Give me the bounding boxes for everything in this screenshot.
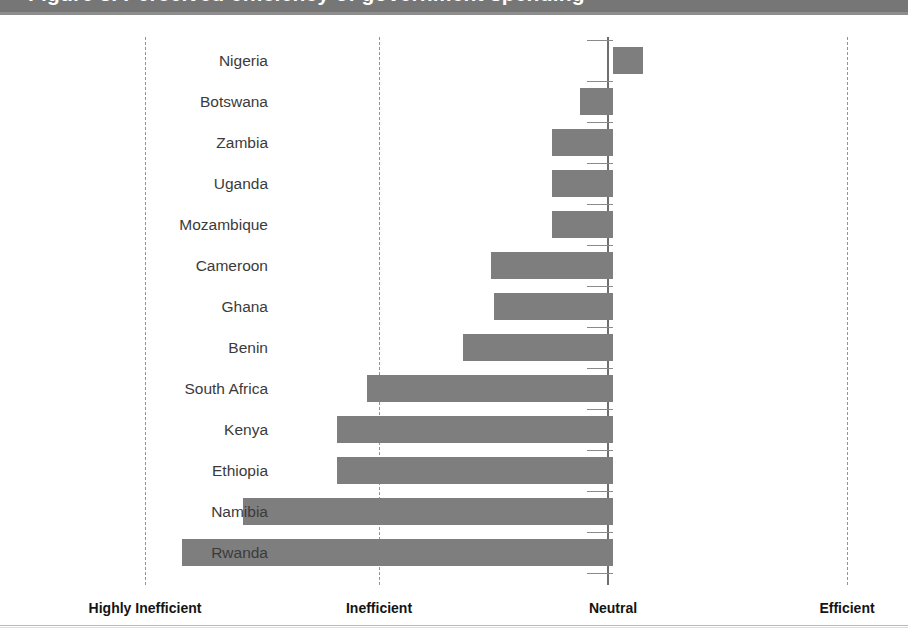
category-label-rwanda: Rwanda [108,545,268,561]
axis-tick [587,327,613,328]
category-label-south-africa: South Africa [108,381,268,397]
axis-tick [587,409,613,410]
category-label-uganda: Uganda [108,176,268,192]
axis-tick [587,532,613,533]
category-label-benin: Benin [108,340,268,356]
axis-tick [587,450,613,451]
axis-tick [587,81,613,82]
bar-zambia [552,129,613,156]
x-axis-label-neutral: Neutral [523,600,703,616]
axis-tick [587,573,613,574]
category-label-namibia: Namibia [108,504,268,520]
axis-tick [587,40,613,41]
axis-tick [587,245,613,246]
axis-tick [587,286,613,287]
bar-ethiopia [337,457,613,484]
axis-tick [587,368,613,369]
category-label-kenya: Kenya [108,422,268,438]
category-label-ghana: Ghana [108,299,268,315]
bar-benin [463,334,613,361]
bar-kenya [337,416,613,443]
bar-nigeria [613,47,643,74]
axis-tick [587,163,613,164]
axis-tick [587,122,613,123]
category-label-cameroon: Cameroon [108,258,268,274]
category-label-nigeria: Nigeria [108,53,268,69]
category-label-zambia: Zambia [108,135,268,151]
category-label-botswana: Botswana [108,94,268,110]
bar-namibia [243,498,613,525]
bar-south-africa [367,375,613,402]
bar-ghana [494,293,613,320]
gridline-efficient [847,37,848,585]
header-band: Figure 3. Perceived efficiency of govern… [0,0,908,15]
bottom-rule [0,625,908,626]
category-label-mozambique: Mozambique [108,217,268,233]
bar-mozambique [552,211,613,238]
axis-tick [587,204,613,205]
axis-tick [587,491,613,492]
category-label-ethiopia: Ethiopia [108,463,268,479]
bar-botswana [580,88,613,115]
x-axis-label-highly-inefficient: Highly Inefficient [55,600,235,616]
x-axis-label-efficient: Efficient [757,600,908,616]
bar-uganda [552,170,613,197]
plot-area: NigeriaBotswanaZambiaUgandaMozambiqueCam… [0,15,908,577]
clipped-figure-title: Figure 3. Perceived efficiency of govern… [28,0,585,6]
x-axis-label-inefficient: Inefficient [289,600,469,616]
bar-cameroon [491,252,613,279]
chart-figure: Figure 3. Perceived efficiency of govern… [0,0,908,632]
bottom-rule-secondary [0,627,908,628]
